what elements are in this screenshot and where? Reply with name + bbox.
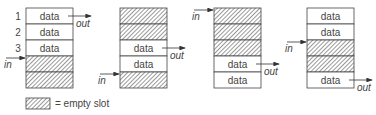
- buffer-stack-1: datadatadatainout123: [4, 8, 91, 88]
- slot-label: data: [40, 27, 60, 38]
- out-label: out: [357, 82, 372, 93]
- in-label: in: [4, 59, 12, 70]
- slot-label: data: [321, 27, 341, 38]
- empty-slot: [120, 8, 167, 24]
- circular-buffer-diagram: datadatadatainout123datadatainoutdatadat…: [0, 0, 376, 115]
- row-number: 3: [15, 43, 21, 54]
- out-label: out: [264, 66, 279, 77]
- in-label: in: [98, 75, 106, 86]
- slot-label: data: [228, 59, 248, 70]
- row-number: 2: [15, 27, 21, 38]
- empty-slot: [26, 56, 73, 72]
- empty-slot: [214, 40, 261, 56]
- in-label: in: [192, 11, 200, 22]
- slot-label: data: [321, 11, 341, 22]
- buffer-stack-4: datadatadatainout: [285, 8, 372, 93]
- row-number: 1: [15, 11, 21, 22]
- slot-label: data: [321, 75, 341, 86]
- in-label: in: [285, 43, 293, 54]
- legend-swatch: [26, 98, 50, 109]
- empty-slot: [214, 24, 261, 40]
- buffer-stack-2: datadatainout: [98, 8, 185, 88]
- empty-slot: [120, 72, 167, 88]
- slot-label: data: [134, 59, 154, 70]
- empty-slot: [307, 40, 354, 56]
- empty-slot: [120, 24, 167, 40]
- empty-slot: [26, 72, 73, 88]
- empty-slot: [214, 8, 261, 24]
- legend-text: = empty slot: [55, 98, 109, 109]
- buffer-stack-3: datadatainout: [192, 8, 279, 88]
- legend: = empty slot: [26, 98, 109, 109]
- out-label: out: [76, 18, 91, 29]
- slot-label: data: [40, 43, 60, 54]
- slot-label: data: [228, 75, 248, 86]
- slot-label: data: [40, 11, 60, 22]
- empty-slot: [307, 56, 354, 72]
- out-label: out: [170, 50, 185, 61]
- slot-label: data: [134, 43, 154, 54]
